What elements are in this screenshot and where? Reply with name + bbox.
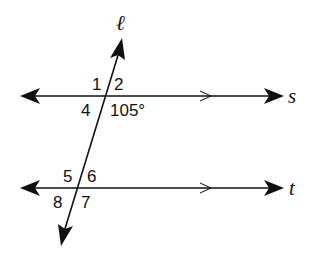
angle-6: 6 xyxy=(87,167,96,186)
label-l: ℓ xyxy=(116,11,125,35)
angle-5: 5 xyxy=(63,167,72,186)
angle-1: 1 xyxy=(92,75,101,94)
angle-3-105: 105° xyxy=(110,101,145,120)
angle-7: 7 xyxy=(81,193,90,212)
label-s: s xyxy=(288,84,296,108)
transversal-l xyxy=(58,38,125,246)
angle-4: 4 xyxy=(81,101,90,120)
angle-8: 8 xyxy=(53,193,62,212)
angle-2: 2 xyxy=(114,75,123,94)
parallel-lines-diagram: ℓ s t 1 2 4 105° 5 6 8 7 xyxy=(0,0,323,270)
line-s xyxy=(20,88,284,104)
label-t: t xyxy=(289,176,296,200)
